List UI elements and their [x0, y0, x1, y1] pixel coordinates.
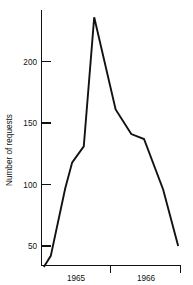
chart-plot-area: 200 150 100 50 1965 1966 Number of reque… [0, 0, 193, 285]
x-tick-label-1965: 1965 [67, 274, 86, 283]
line-chart-figure: 200 150 100 50 1965 1966 Number of reque… [0, 0, 193, 285]
y-tick-label-50: 50 [28, 242, 38, 251]
y-tick-label-100: 100 [23, 181, 37, 190]
y-tick-label-150: 150 [23, 119, 37, 128]
y-tick-label-200: 200 [23, 58, 37, 67]
x-tick-label-1966: 1966 [137, 274, 156, 283]
requests-line-series [44, 17, 178, 267]
y-axis-title: Number of requests [5, 114, 14, 186]
